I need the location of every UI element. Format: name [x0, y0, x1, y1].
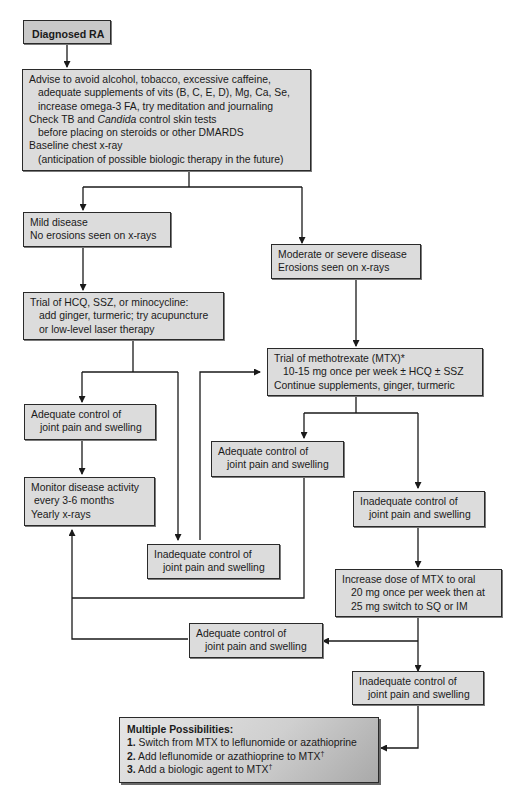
- advise-line-3: increase omega-3 FA, try meditation and …: [29, 100, 304, 113]
- candida-term: Candida: [98, 114, 137, 125]
- adequate-high-line-2: joint pain and swelling: [196, 640, 316, 653]
- dagger-footnote-mark: †: [321, 749, 325, 756]
- increase-mtx-dose-box: Increase dose of MTX to oral 20 mg once …: [335, 569, 502, 617]
- diagnosed-ra-box: Diagnosed RA: [23, 20, 111, 44]
- inadequate-left-line-2: joint pain and swelling: [154, 561, 273, 574]
- moderate-line-1: Moderate or severe disease: [278, 248, 414, 261]
- mild-disease-box: Mild disease No erosions seen on x-rays: [23, 212, 171, 247]
- inadequate-left-line-1: Inadequate control of: [154, 548, 273, 561]
- trial-mtx-line-3: Continue supplements, ginger, turmeric: [274, 379, 476, 392]
- monitor-line-3: Yearly x-rays: [31, 508, 148, 521]
- trial-mtx-line-1: Trial of methotrexate (MTX)*: [274, 352, 476, 365]
- inadequate-mtx-line-1: Inadequate control of: [360, 495, 478, 508]
- adequate-left-line-1: Adequate control of: [31, 408, 149, 421]
- inadequate-control-mtx-box: Inadequate control of joint pain and swe…: [353, 491, 485, 527]
- ra-treatment-flowchart: Diagnosed RA Advise to avoid alcohol, to…: [0, 0, 532, 804]
- adequate-mtx-line-2: joint pain and swelling: [218, 458, 337, 471]
- option-1: 1. Switch from MTX to leflunomide or aza…: [127, 736, 371, 749]
- inadequate-control-left-box: Inadequate control of joint pain and swe…: [147, 544, 280, 579]
- option-3: 3. Add a biologic agent to MTX†: [127, 763, 371, 776]
- advise-line-5: before placing on steroids or other DMAR…: [29, 126, 304, 139]
- monitor-line-1: Monitor disease activity: [31, 481, 148, 494]
- trial-hcq-box: Trial of HCQ, SSZ, or minocycline: add g…: [23, 292, 224, 340]
- adequate-high-line-1: Adequate control of: [196, 627, 316, 640]
- multiple-possibilities-box: Multiple Possibilities: 1. Switch from M…: [119, 717, 379, 783]
- inadequate-mtx-line-2: joint pain and swelling: [360, 508, 478, 521]
- option-2: 2. Add leflunomide or azathioprine to MT…: [127, 750, 371, 763]
- dagger-footnote-mark: †: [269, 763, 273, 770]
- adequate-left-line-2: joint pain and swelling: [31, 421, 149, 434]
- diagnosed-ra-label: Diagnosed RA: [32, 28, 104, 40]
- advise-lifestyle-box: Advise to avoid alcohol, tobacco, excess…: [22, 69, 311, 171]
- advise-line-4: Check TB and Candida control skin tests: [29, 113, 304, 126]
- trial-hcq-line-1: Trial of HCQ, SSZ, or minocycline:: [30, 296, 217, 309]
- moderate-line-2: Erosions seen on x-rays: [278, 261, 414, 274]
- advise-line-2: adequate supplements of vits (B, C, E, D…: [29, 86, 304, 99]
- inadequate-control-high-dose-box: Inadequate control of joint pain and swe…: [352, 671, 484, 705]
- inadequate-high-line-2: joint pain and swelling: [359, 688, 477, 701]
- adequate-control-high-dose-box: Adequate control of joint pain and swell…: [189, 623, 323, 658]
- trial-mtx-box: Trial of methotrexate (MTX)* 10-15 mg on…: [267, 348, 483, 396]
- mild-line-2: No erosions seen on x-rays: [30, 229, 164, 242]
- increase-mtx-line-1: Increase dose of MTX to oral: [342, 573, 495, 586]
- increase-mtx-line-2: 20 mg once per week then at: [342, 586, 495, 599]
- monitor-line-2: every 3-6 months: [31, 494, 148, 507]
- monitor-disease-box: Monitor disease activity every 3-6 month…: [24, 477, 155, 526]
- trial-hcq-line-3: or low-level laser therapy: [30, 323, 217, 336]
- adequate-control-left-box: Adequate control of joint pain and swell…: [24, 404, 156, 440]
- trial-hcq-line-2: add ginger, turmeric; try acupuncture: [30, 309, 217, 322]
- trial-mtx-line-2: 10-15 mg once per week ± HCQ ± SSZ: [274, 365, 476, 378]
- multiple-possibilities-title: Multiple Possibilities:: [127, 723, 371, 736]
- advise-line-7: (anticipation of possible biologic thera…: [29, 153, 304, 166]
- advise-line-6: Baseline chest x-ray: [29, 139, 304, 152]
- inadequate-high-line-1: Inadequate control of: [359, 675, 477, 688]
- adequate-control-mtx-box: Adequate control of joint pain and swell…: [211, 441, 344, 477]
- increase-mtx-line-3: 25 mg switch to SQ or IM: [342, 600, 495, 613]
- moderate-disease-box: Moderate or severe disease Erosions seen…: [271, 244, 421, 279]
- adequate-mtx-line-1: Adequate control of: [218, 445, 337, 458]
- advise-line-1: Advise to avoid alcohol, tobacco, excess…: [29, 73, 304, 86]
- mild-line-1: Mild disease: [30, 216, 164, 229]
